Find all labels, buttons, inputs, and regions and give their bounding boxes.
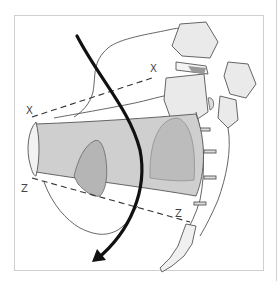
pubis-end — [28, 122, 39, 176]
label-z-left: Z — [21, 183, 28, 194]
disc-knob — [208, 98, 214, 110]
pelvis-diagram: X X Z Z — [0, 0, 280, 281]
label-z-right: Z — [175, 208, 182, 219]
sacrum-back-outline — [200, 128, 229, 236]
lumbar-vertebrae — [164, 22, 256, 128]
coccyx — [160, 224, 196, 272]
label-x-right: X — [150, 63, 157, 74]
label-x-left: X — [26, 105, 33, 116]
